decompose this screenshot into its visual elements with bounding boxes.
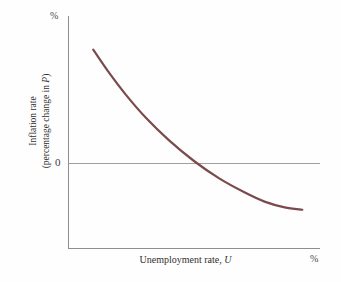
y-axis-title-variable: P [41, 77, 51, 83]
y-axis-line [68, 16, 69, 249]
y-tick-label-zero: 0 [55, 156, 61, 169]
x-axis-line [68, 248, 320, 249]
y-axis-title-line2: (percentage change in P) [40, 36, 53, 206]
y-axis-title-line1: Inflation rate [28, 96, 38, 145]
phillips-curve-line [93, 50, 302, 210]
x-axis-title-text: Unemployment rate, [140, 254, 225, 265]
y-axis-unit-label: % [50, 10, 58, 22]
x-axis-title: Unemployment rate, U [68, 253, 303, 266]
x-axis-title-variable: U [224, 254, 231, 265]
y-axis-title-line2-suffix: ) [41, 74, 51, 77]
phillips-curve-chart: % % 0 Inflation rate (percentage change … [0, 0, 341, 282]
y-axis-title: Inflation rate (percentage change in P) [27, 36, 53, 206]
zero-reference-line [68, 163, 320, 164]
x-axis-unit-label: % [310, 253, 318, 265]
y-axis-title-line2-prefix: (percentage change in [41, 83, 51, 169]
